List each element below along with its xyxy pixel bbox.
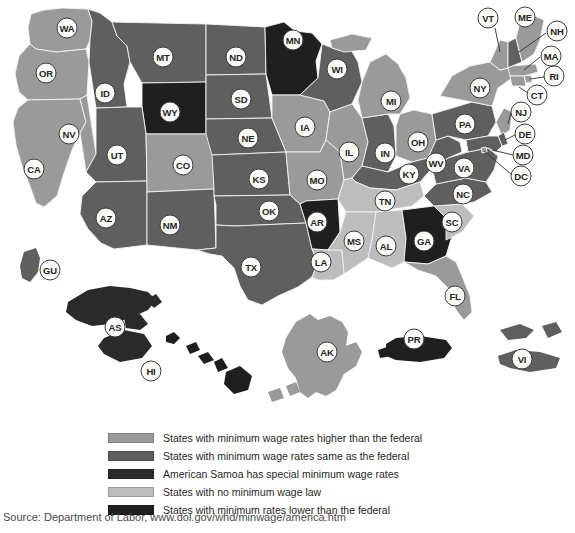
legend-item-no-law[interactable]: States with no minimum wage law [108, 483, 468, 501]
state-label-AL[interactable]: AL [376, 236, 397, 257]
state-label-AS[interactable]: AS [105, 317, 126, 338]
state-label-WY[interactable]: WY [160, 102, 181, 123]
minimum-wage-map-figure: WA OR ID MT WY ND SD NE MN WI IA IL MI I… [0, 0, 575, 533]
state-label-MN[interactable]: MN [283, 30, 304, 51]
state-label-text: SC [446, 217, 459, 227]
state-label-NC[interactable]: NC [453, 184, 474, 205]
state-label-GA[interactable]: GA [414, 231, 435, 252]
state-label-CT[interactable]: CT [527, 85, 548, 106]
state-label-NJ[interactable]: NJ [511, 102, 532, 123]
state-label-RI[interactable]: RI [544, 66, 565, 87]
state-label-MO[interactable]: MO [307, 170, 328, 191]
state-label-text: AS [109, 322, 122, 332]
state-label-text: OR [39, 68, 53, 78]
state-label-text: LA [315, 257, 327, 267]
state-label-text: OK [262, 206, 276, 216]
state-label-WV[interactable]: WV [426, 153, 447, 174]
state-label-DC[interactable]: DC [511, 166, 532, 187]
state-label-PA[interactable]: PA [455, 114, 476, 135]
state-label-ID[interactable]: ID [95, 83, 116, 104]
state-label-VA[interactable]: VA [454, 158, 475, 179]
state-CT[interactable] [510, 76, 526, 86]
leader-DE [505, 135, 515, 140]
state-label-MA[interactable]: MA [541, 46, 562, 67]
state-label-IA[interactable]: IA [295, 117, 316, 138]
state-CA[interactable] [13, 99, 86, 207]
state-label-text: NE [242, 133, 255, 143]
state-label-MT[interactable]: MT [153, 47, 174, 68]
legend-swatch-same [108, 451, 154, 461]
state-label-text: NH [550, 26, 563, 36]
state-HI[interactable] [166, 332, 252, 394]
state-label-WA[interactable]: WA [57, 18, 78, 39]
state-AK[interactable] [268, 314, 362, 402]
state-label-NM[interactable]: NM [160, 215, 181, 236]
state-label-MI[interactable]: MI [381, 91, 402, 112]
state-label-AK[interactable]: AK [317, 342, 338, 363]
state-label-text: DC [514, 171, 527, 181]
state-label-AZ[interactable]: AZ [96, 208, 117, 229]
state-label-WI[interactable]: WI [327, 59, 348, 80]
state-label-IN[interactable]: IN [375, 143, 396, 164]
state-label-TN[interactable]: TN [375, 191, 396, 212]
state-label-TX[interactable]: TX [241, 257, 262, 278]
state-label-text: CA [27, 164, 40, 174]
state-label-text: SD [235, 94, 248, 104]
state-label-text: ME [518, 12, 532, 22]
state-label-MS[interactable]: MS [344, 231, 365, 252]
state-label-VT[interactable]: VT [478, 8, 499, 29]
state-DC[interactable] [481, 147, 487, 153]
state-label-text: WY [163, 107, 178, 117]
legend-label-higher: States with minimum wage rates higher th… [163, 432, 422, 444]
state-label-text: NM [163, 220, 177, 230]
state-label-NE[interactable]: NE [238, 128, 259, 149]
legend-label-same: States with minimum wage rates same as t… [163, 450, 409, 462]
legend-item-higher[interactable]: States with minimum wage rates higher th… [108, 429, 468, 447]
state-label-OK[interactable]: OK [259, 201, 280, 222]
state-label-text: NJ [515, 107, 527, 117]
state-label-text: CT [531, 90, 543, 100]
legend-swatch-higher [108, 433, 154, 443]
state-label-text: MD [516, 150, 530, 160]
state-label-PR[interactable]: PR [404, 329, 425, 350]
state-label-ND[interactable]: ND [226, 47, 247, 68]
state-NM[interactable] [147, 189, 216, 250]
legend-label-american-samoa: American Samoa has special minimum wage … [163, 468, 399, 480]
state-label-CO[interactable]: CO [173, 155, 194, 176]
state-label-text: IA [300, 122, 309, 132]
state-label-NY[interactable]: NY [470, 78, 491, 99]
state-label-LA[interactable]: LA [311, 252, 332, 273]
state-label-OR[interactable]: OR [36, 63, 57, 84]
state-label-NH[interactable]: NH [547, 21, 568, 42]
state-GU[interactable] [20, 248, 40, 282]
state-label-FL[interactable]: FL [445, 286, 466, 307]
state-label-text: UT [111, 150, 123, 160]
state-label-text: GU [43, 265, 57, 275]
legend-item-same[interactable]: States with minimum wage rates same as t… [108, 447, 468, 465]
state-label-MD[interactable]: MD [513, 145, 534, 166]
state-MA[interactable] [508, 64, 538, 76]
state-label-UT[interactable]: UT [107, 145, 128, 166]
state-label-KY[interactable]: KY [399, 164, 420, 185]
state-label-SD[interactable]: SD [231, 89, 252, 110]
state-label-VI[interactable]: VI [512, 349, 533, 370]
state-label-AR[interactable]: AR [307, 212, 328, 233]
state-label-GU[interactable]: GU [40, 260, 61, 281]
state-label-ME[interactable]: ME [515, 7, 536, 28]
state-label-IL[interactable]: IL [339, 142, 360, 163]
state-label-text: WI [331, 64, 342, 74]
state-label-text: VA [458, 163, 470, 173]
map-legend: States with minimum wage rates higher th… [108, 429, 468, 519]
state-label-text: FL [449, 291, 460, 301]
state-label-OH[interactable]: OH [408, 132, 429, 153]
state-label-HI[interactable]: HI [141, 361, 162, 382]
state-label-NV[interactable]: NV [59, 124, 80, 145]
state-label-KS[interactable]: KS [249, 169, 270, 190]
legend-item-american-samoa[interactable]: American Samoa has special minimum wage … [108, 465, 468, 483]
state-label-text: CO [176, 160, 190, 170]
state-label-SC[interactable]: SC [442, 212, 463, 233]
state-label-DE[interactable]: DE [515, 124, 536, 145]
state-label-CA[interactable]: CA [24, 159, 45, 180]
state-label-text: WA [60, 23, 75, 33]
state-label-text: NY [474, 83, 487, 93]
